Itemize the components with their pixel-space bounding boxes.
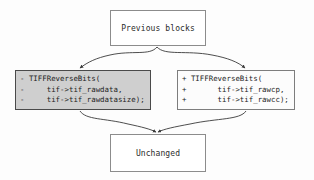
node-removed-code[interactable]: - TIFFReverseBits( - tif->tif_rawdata, -… xyxy=(15,70,151,110)
edge-removed-to-unchanged xyxy=(80,111,156,132)
node-unchanged-label: Unchanged xyxy=(136,149,180,158)
node-added-code[interactable]: + TIFFReverseBits( + tif->tif_rawcp, + t… xyxy=(177,70,295,110)
added-code-line-3: + tif->tif_rawcc); xyxy=(182,95,290,106)
node-previous-blocks-label: Previous blocks xyxy=(121,24,195,33)
added-code-line-1: + TIFFReverseBits( xyxy=(182,74,290,85)
diagram-canvas: Previous blocks - TIFFReverseBits( - tif… xyxy=(0,0,314,180)
removed-code-line-3: - tif->tif_rawdatasize); xyxy=(20,95,146,106)
removed-code-line-2: - tif->tif_rawdata, xyxy=(20,85,146,96)
edge-previous-to-added xyxy=(157,47,245,68)
added-code-line-2: + tif->tif_rawcp, xyxy=(182,85,290,96)
node-previous-blocks[interactable]: Previous blocks xyxy=(110,10,206,46)
removed-code-line-1: - TIFFReverseBits( xyxy=(20,74,146,85)
edge-added-to-unchanged xyxy=(158,111,246,132)
node-unchanged[interactable]: Unchanged xyxy=(110,134,206,172)
edge-previous-to-removed xyxy=(80,47,157,68)
